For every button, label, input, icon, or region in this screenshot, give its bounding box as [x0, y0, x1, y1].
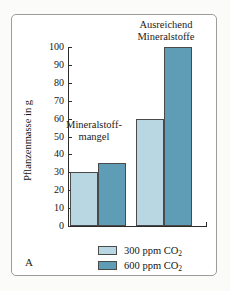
- legend-label-subscript: 2: [178, 264, 182, 273]
- y-axis-tick-label: 50: [38, 132, 64, 142]
- legend-item-300ppm: 300 ppm CO2: [98, 243, 182, 257]
- y-axis-tick-label: 80: [38, 78, 64, 88]
- figure-root: Ausreichend Mineralstoffe Mineralstoff- …: [0, 0, 230, 291]
- bar-1-600-ppm-co2: [98, 163, 126, 226]
- legend-label-text: 600 ppm CO: [124, 260, 178, 271]
- y-axis-tick-label: 90: [38, 60, 64, 70]
- y-axis-tick-label: 20: [38, 185, 64, 195]
- legend-item-600ppm: 600 ppm CO2: [98, 258, 182, 272]
- bar-1-300-ppm-co2: [70, 172, 98, 226]
- y-axis-tick: [68, 154, 72, 155]
- bar-2-600-ppm-co2: [164, 47, 192, 226]
- y-axis-tick-label: 60: [38, 114, 64, 124]
- legend: 300 ppm CO2 600 ppm CO2: [98, 243, 182, 273]
- y-axis-tick-label: 70: [38, 96, 64, 106]
- y-axis-tick-label: 10: [38, 203, 64, 213]
- bar-2-300-ppm-co2: [136, 119, 164, 226]
- x-axis-endcap: [206, 222, 207, 227]
- y-axis-tick-label: 100: [38, 42, 64, 52]
- y-axis-tick: [68, 65, 72, 66]
- y-axis-tick: [68, 101, 72, 102]
- legend-label-text: 300 ppm CO: [124, 245, 178, 256]
- y-axis-tick: [68, 83, 72, 84]
- y-axis-tick-label: 40: [38, 149, 64, 159]
- y-axis-tick: [68, 137, 72, 138]
- legend-label-subscript: 2: [178, 249, 182, 258]
- legend-label-600ppm: 600 ppm CO2: [124, 260, 182, 271]
- y-axis-tick: [68, 47, 72, 48]
- legend-swatch-icon-300ppm: [98, 246, 117, 255]
- y-axis-tick: [68, 226, 72, 227]
- legend-swatch-icon-600ppm: [98, 261, 117, 270]
- y-axis-tick-label: 30: [38, 167, 64, 177]
- legend-label-300ppm: 300 ppm CO2: [124, 245, 182, 256]
- y-axis-title: Pflanzenmasse in g: [22, 85, 33, 197]
- x-axis-line: [68, 226, 207, 227]
- panel-letter: A: [25, 256, 33, 268]
- y-axis-tick-label: 0: [38, 221, 64, 231]
- y-axis-tick: [68, 119, 72, 120]
